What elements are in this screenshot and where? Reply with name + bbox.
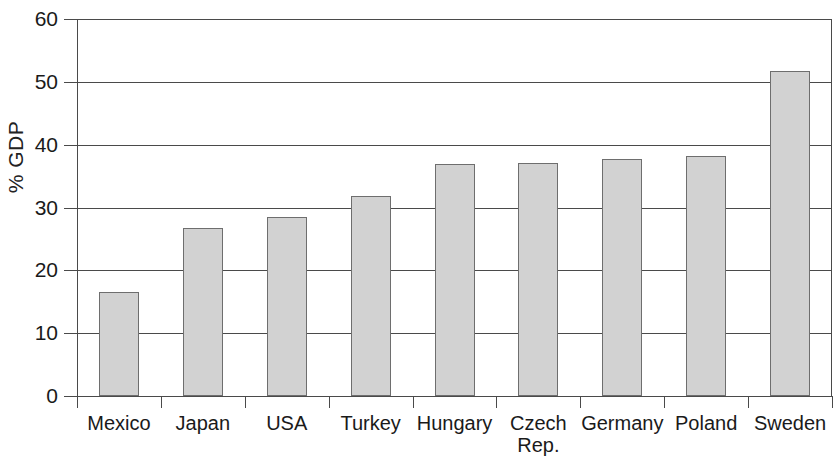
x-tick (77, 396, 78, 408)
x-axis-label: USA (266, 412, 307, 434)
x-axis-label-line: Sweden (754, 412, 826, 434)
y-axis-label: 30 (35, 196, 58, 220)
x-axis-label: Japan (176, 412, 231, 434)
x-axis-label-line: Turkey (340, 412, 400, 434)
x-axis-label-line: Rep. (510, 434, 567, 456)
gridline-50 (77, 82, 832, 83)
x-axis-label-line: Poland (675, 412, 737, 434)
y-tick-50 (64, 82, 77, 83)
y-axis-label: 50 (35, 70, 58, 94)
x-axis-label-line: Germany (581, 412, 663, 434)
bar (686, 156, 726, 396)
bar (602, 159, 642, 396)
gridline-60 (77, 19, 832, 20)
bar-chart: % GDP 0102030405060 MexicoJapanUSATurkey… (0, 0, 836, 458)
bar (183, 228, 223, 396)
x-axis-label-line: Czech (510, 412, 567, 434)
x-axis-label: Germany (581, 412, 663, 434)
x-axis-label: Turkey (340, 412, 400, 434)
x-axis-label-line: Hungary (417, 412, 493, 434)
x-tick (329, 396, 330, 408)
y-axis-label: 20 (35, 258, 58, 282)
bar (99, 292, 139, 396)
x-axis-label: Hungary (417, 412, 493, 434)
y-tick-30 (64, 208, 77, 209)
x-tick (496, 396, 497, 408)
bar (351, 196, 391, 396)
x-axis-label-line: Japan (176, 412, 231, 434)
x-tick (245, 396, 246, 408)
plot-area: 0102030405060 MexicoJapanUSATurkeyHungar… (77, 19, 832, 396)
y-axis-title: % GDP (4, 97, 28, 217)
y-axis-label: 10 (35, 321, 58, 345)
y-tick-0 (64, 396, 77, 397)
gridline-40 (77, 145, 832, 146)
x-tick (832, 396, 833, 408)
bar (518, 163, 558, 396)
x-tick (748, 396, 749, 408)
x-axis-label: Sweden (754, 412, 826, 434)
y-axis-label: 40 (35, 133, 58, 157)
x-axis-label: Poland (675, 412, 737, 434)
y-tick-60 (64, 19, 77, 20)
y-axis-label: 0 (46, 384, 58, 408)
y-tick-20 (64, 270, 77, 271)
gridline-0 (77, 396, 832, 397)
x-tick (161, 396, 162, 408)
x-axis-label: CzechRep. (510, 412, 567, 457)
y-tick-10 (64, 333, 77, 334)
x-axis-label: Mexico (87, 412, 150, 434)
x-tick (664, 396, 665, 408)
x-tick (580, 396, 581, 408)
x-axis-label-line: USA (266, 412, 307, 434)
y-axis-label: 60 (35, 7, 58, 31)
y-tick-40 (64, 145, 77, 146)
bar (267, 217, 307, 396)
bar (435, 164, 475, 396)
bar (770, 71, 810, 396)
x-tick (413, 396, 414, 408)
x-axis-label-line: Mexico (87, 412, 150, 434)
